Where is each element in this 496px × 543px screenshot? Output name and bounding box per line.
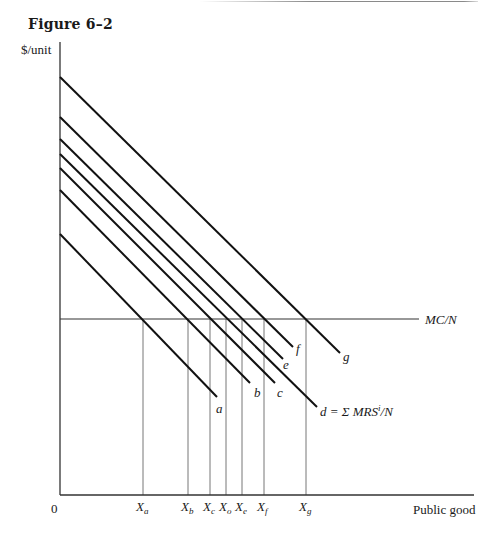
x-tick-xf: Xf — [256, 499, 269, 516]
x-tick-xa: Xa — [135, 499, 149, 516]
curve-c — [60, 168, 275, 383]
curve-f — [60, 117, 293, 347]
x-tick-xb: Xb — [180, 499, 194, 516]
x-tick-xo: Xo — [218, 499, 232, 516]
demand-curves — [60, 77, 340, 407]
curve-a — [60, 234, 217, 397]
x-tick-xe: Xe — [234, 499, 247, 516]
mc-over-n-label: MC/N — [424, 312, 458, 327]
x-tick-xg: Xg — [298, 499, 312, 516]
curve-label-f: f — [296, 341, 302, 356]
x-tick-xc: Xc — [202, 499, 215, 516]
curve-e — [60, 139, 283, 359]
curve-labels: abcd = Σ MRSi/Nefg — [216, 341, 394, 419]
curve-label-g: g — [343, 349, 350, 364]
curve-g — [60, 77, 340, 353]
curve-label-d: d = Σ MRSi/N — [320, 403, 394, 419]
x-tick-labels: XaXbXcXoXeXfXg — [135, 499, 312, 516]
curve-b — [60, 190, 250, 383]
curve-label-e: e — [283, 357, 289, 372]
curve-label-a: a — [216, 401, 223, 416]
chart-plot: MC/N abcd = Σ MRSi/Nefg XaXbXcXoXeXfXg — [0, 0, 496, 543]
curve-label-c: c — [277, 385, 283, 400]
curve-d — [60, 154, 317, 407]
curve-label-b: b — [254, 385, 261, 400]
